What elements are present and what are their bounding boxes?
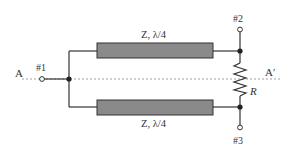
upper-line-label: Z, λ/4 — [141, 29, 167, 40]
circuit-schematic: A #1 #2 #3 Z, λ/4 Z, λ/4 R A′ — [0, 0, 290, 153]
lower-line-label: Z, λ/4 — [141, 118, 167, 129]
junction-dot-upper — [237, 48, 242, 53]
port-1-label: #1 — [36, 62, 46, 73]
port-2-label: #2 — [233, 13, 243, 24]
lower-transmission-line — [97, 100, 213, 115]
port-2-terminal-icon — [238, 27, 243, 32]
resistor-icon — [234, 63, 246, 96]
junction-dot-lower — [237, 104, 242, 109]
resistor-label: R — [249, 85, 257, 97]
port-3-label: #3 — [233, 135, 243, 146]
port-1-terminal-icon — [40, 77, 45, 82]
port-3-terminal-icon — [238, 125, 243, 130]
junction-dot-input — [66, 76, 71, 81]
wilkinson-divider-diagram: A #1 #2 #3 Z, λ/4 Z, λ/4 R A′ — [0, 0, 290, 153]
axis-end-label: A′ — [265, 66, 275, 78]
upper-transmission-line — [97, 43, 213, 58]
axis-start-label: A — [15, 67, 23, 79]
